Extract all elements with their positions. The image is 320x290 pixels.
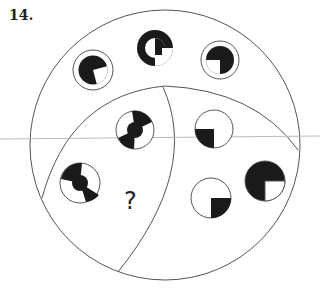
symbol-lower-left-2 [60, 163, 100, 203]
symbol-lower-right-2 [191, 178, 231, 218]
symbol-top-middle [137, 30, 173, 66]
symbol-top-right [201, 41, 239, 79]
symbol-lower-right-1 [195, 110, 233, 148]
guide-line [0, 136, 320, 139]
unknown-symbol-placeholder: ? [124, 187, 137, 215]
symbol-lower-left-1 [116, 111, 154, 149]
symbol-top-left [73, 50, 113, 90]
symbol-lower-right-3 [245, 161, 285, 201]
puzzle-diagram [0, 0, 320, 290]
